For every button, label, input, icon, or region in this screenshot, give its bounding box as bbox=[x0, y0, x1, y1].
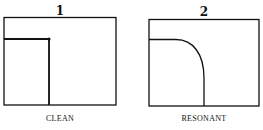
panel-number-1: 1 bbox=[56, 4, 64, 18]
panel-label-2: RESONANT bbox=[181, 114, 226, 123]
corner-dot bbox=[47, 37, 50, 40]
resonant-response-curve bbox=[149, 40, 204, 107]
panel-label-1: CLEAN bbox=[46, 114, 74, 123]
clean-response-curve bbox=[4, 39, 49, 105]
panel-resonant: 2 RESONANT bbox=[149, 5, 259, 123]
panel-frame-1 bbox=[4, 18, 116, 106]
diagram: 1 CLEAN 2 RESONANT bbox=[0, 0, 263, 130]
panel-clean: 1 CLEAN bbox=[4, 4, 116, 123]
panel-number-2: 2 bbox=[200, 5, 208, 19]
